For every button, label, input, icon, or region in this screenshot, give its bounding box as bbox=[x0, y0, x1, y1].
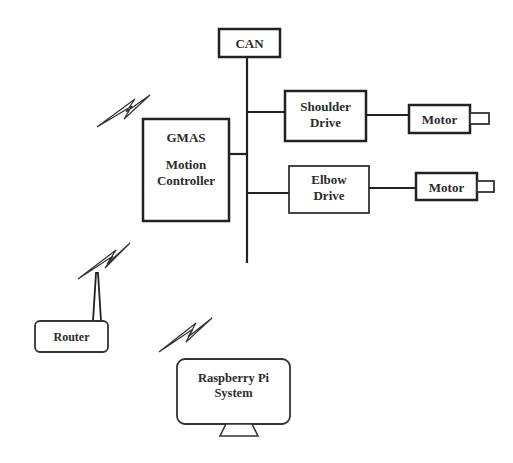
monitor-stand-icon bbox=[220, 424, 258, 436]
elbow-motor-label: Motor bbox=[429, 180, 465, 195]
router: Router bbox=[35, 243, 130, 352]
controller-title: GMAS bbox=[167, 130, 206, 145]
pi-label-line1: Raspberry Pi bbox=[198, 371, 270, 385]
shoulder-drive-line1: Shoulder bbox=[300, 99, 351, 114]
elbow-drive-group: Elbow Drive Motor bbox=[247, 166, 494, 213]
router-label: Router bbox=[54, 330, 91, 344]
elbow-drive-line2: Drive bbox=[313, 188, 344, 203]
shoulder-motor-label: Motor bbox=[422, 112, 458, 127]
elbow-motor-shaft-icon bbox=[477, 181, 494, 192]
shoulder-drive-group: Shoulder Drive Motor bbox=[247, 91, 489, 141]
elbow-drive-line1: Elbow bbox=[311, 172, 347, 187]
router-antenna-icon bbox=[93, 273, 101, 321]
can-label: CAN bbox=[235, 36, 264, 51]
controller-line3: Controller bbox=[157, 173, 215, 188]
system-diagram: CAN GMAS Motion Controller Shoulder Driv… bbox=[0, 0, 513, 463]
controller-line2: Motion bbox=[166, 157, 207, 172]
router-wireless-signal-icon bbox=[78, 243, 130, 279]
pi-label-line2: System bbox=[214, 386, 253, 400]
shoulder-drive-line2: Drive bbox=[310, 115, 341, 130]
shoulder-motor-shaft-icon bbox=[470, 113, 489, 124]
raspberry-pi-system: Raspberry Pi System bbox=[159, 318, 290, 436]
pi-wireless-signal-icon bbox=[159, 318, 212, 352]
motion-controller: GMAS Motion Controller bbox=[143, 119, 247, 221]
